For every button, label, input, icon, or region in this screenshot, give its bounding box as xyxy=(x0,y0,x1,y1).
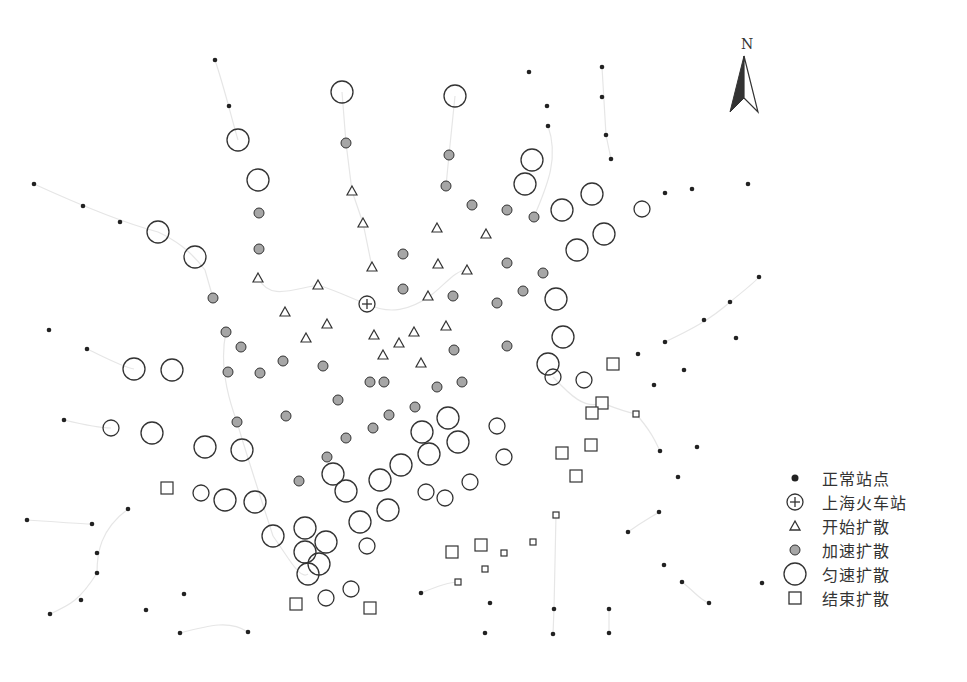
start-station-triangle xyxy=(280,307,290,316)
end-station-square xyxy=(482,566,488,572)
uniform-station-circle xyxy=(496,449,512,465)
end-station-square xyxy=(607,358,619,370)
north-arrow-icon xyxy=(722,36,772,116)
legend-label: 结束扩散 xyxy=(822,586,890,610)
accelerate-station-dot xyxy=(341,433,351,443)
uniform-station-circle xyxy=(593,223,615,245)
uniform-station-circle xyxy=(566,239,588,261)
accelerate-station-dot xyxy=(398,249,408,259)
uniform-station-circle xyxy=(184,246,206,268)
gray-dot-icon xyxy=(780,538,810,562)
accelerate-station-dot xyxy=(502,258,512,268)
end-station-square xyxy=(570,470,582,482)
accelerate-station-dot xyxy=(518,286,528,296)
uniform-station-circle xyxy=(194,436,216,458)
start-station-triangle xyxy=(409,327,419,336)
accelerate-station-dot xyxy=(281,411,291,421)
uniform-station-circle xyxy=(294,541,316,563)
legend-label: 开始扩散 xyxy=(822,514,890,538)
uniform-station-circle xyxy=(545,288,567,310)
route-line xyxy=(97,509,128,573)
route-line xyxy=(446,96,455,186)
normal-station-dot xyxy=(95,571,100,576)
end-station-square xyxy=(530,539,536,545)
accelerate-station-dot xyxy=(368,423,378,433)
accelerate-station-dot xyxy=(444,150,454,160)
accelerate-station-dot xyxy=(457,377,467,387)
small-dot-icon xyxy=(780,466,810,490)
normal-station-dot xyxy=(652,383,657,388)
uniform-station-circle xyxy=(335,480,357,502)
start-station-triangle xyxy=(367,262,377,271)
end-station-square xyxy=(501,550,507,556)
normal-station-dot xyxy=(81,204,86,209)
normal-station-dot xyxy=(658,449,663,454)
uniform-station-circle xyxy=(343,581,359,597)
end-station-square xyxy=(446,546,458,558)
legend-label: 加速扩散 xyxy=(822,538,890,562)
accelerate-station-dot xyxy=(236,342,246,352)
uniform-station-circle xyxy=(377,499,399,521)
normal-station-dot xyxy=(488,601,493,606)
uniform-station-circle xyxy=(349,511,371,533)
normal-station-dot xyxy=(734,336,739,341)
start-station-triangle xyxy=(433,259,443,268)
normal-station-dot xyxy=(227,104,232,109)
route-line xyxy=(180,625,248,633)
normal-station-dot xyxy=(607,607,612,612)
legend: 正常站点 上海火车站 开始扩散 加速扩散 匀速扩散 结束扩散 xyxy=(780,466,960,610)
start-diffusion-stations xyxy=(253,186,491,367)
uniform-station-circle xyxy=(521,149,543,171)
legend-item-accelerate: 加速扩散 xyxy=(780,538,960,562)
normal-station-dot xyxy=(676,475,681,480)
uniform-station-circle xyxy=(489,418,505,434)
start-station-triangle xyxy=(378,350,388,359)
accelerate-station-dot xyxy=(221,327,231,337)
accelerate-station-dot xyxy=(448,291,458,301)
square-icon xyxy=(780,586,810,610)
accelerate-station-dot xyxy=(502,205,512,215)
normal-station-dot xyxy=(144,608,149,613)
normal-station-dot xyxy=(636,352,641,357)
start-station-triangle xyxy=(394,338,404,347)
normal-station-dot xyxy=(707,601,712,606)
normal-station-dot xyxy=(657,510,662,515)
uniform-station-circle xyxy=(437,407,459,429)
accelerate-station-dot xyxy=(322,452,332,462)
uniform-station-circle xyxy=(247,169,269,191)
uniform-station-circle xyxy=(141,422,163,444)
normal-station-dot xyxy=(213,58,218,63)
uniform-station-circle xyxy=(551,199,573,221)
end-station-square xyxy=(364,602,376,614)
start-station-triangle xyxy=(416,358,426,367)
accelerate-station-dot xyxy=(254,244,264,254)
route-line xyxy=(34,184,213,298)
normal-station-dot xyxy=(85,347,90,352)
end-station-square xyxy=(455,579,461,585)
uniform-station-circle xyxy=(634,201,650,217)
uniform-station-circle xyxy=(514,173,536,195)
accelerate-station-dot xyxy=(529,212,539,222)
triangle-icon xyxy=(780,514,810,538)
accelerate-station-dot xyxy=(278,356,288,366)
normal-station-dot xyxy=(126,507,131,512)
normal-station-dot xyxy=(682,368,687,373)
accelerate-station-dot xyxy=(432,382,442,392)
normal-station-dot xyxy=(702,318,707,323)
normal-station-dot xyxy=(47,328,52,333)
accelerate-station-dot xyxy=(379,377,389,387)
metro-routes xyxy=(27,60,759,634)
normal-station-dot xyxy=(419,591,424,596)
uniform-diffusion-stations xyxy=(103,81,650,606)
normal-station-dot xyxy=(600,65,605,70)
uniform-station-circle xyxy=(390,454,412,476)
route-line xyxy=(534,126,552,217)
route-line xyxy=(87,349,134,369)
accelerate-station-dot xyxy=(538,268,548,278)
accelerate-station-dot xyxy=(294,476,304,486)
start-station-triangle xyxy=(369,330,379,339)
route-line xyxy=(628,512,659,532)
large-circle-icon xyxy=(780,562,810,586)
start-station-triangle xyxy=(481,229,491,238)
uniform-station-circle xyxy=(359,538,375,554)
